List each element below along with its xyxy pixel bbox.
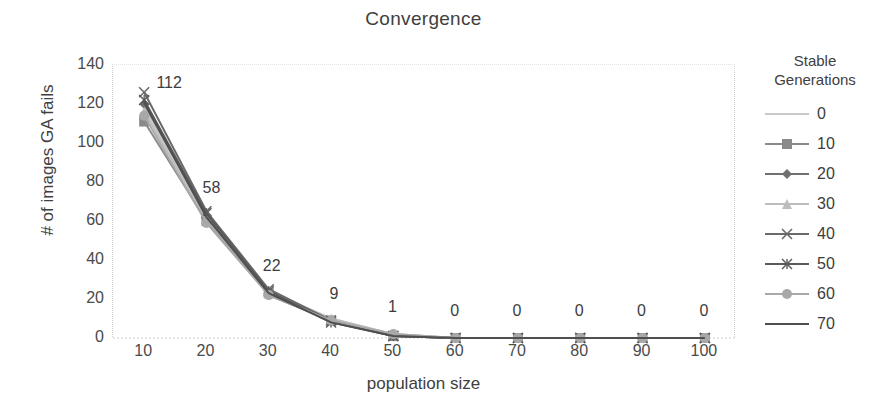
data-label: 22 xyxy=(263,258,281,274)
x-axis-tick-label: 100 xyxy=(680,343,728,359)
series-line xyxy=(139,117,710,343)
legend-item-40[interactable]: 40 xyxy=(748,219,882,249)
legend-items: 010203040506070 xyxy=(748,99,882,339)
legend-swatch-square-icon xyxy=(764,135,810,153)
y-axis-tick-label: 40 xyxy=(44,251,104,267)
x-axis-tick-label: 30 xyxy=(244,343,292,359)
data-label: 0 xyxy=(699,303,708,319)
legend-swatch-circle-icon xyxy=(764,285,810,303)
legend-label: 50 xyxy=(817,256,835,272)
legend-swatch-x-icon xyxy=(764,225,810,243)
legend-label: 30 xyxy=(817,196,835,212)
y-axis-tick-label: 140 xyxy=(44,56,104,72)
x-axis-tick-label: 90 xyxy=(618,343,666,359)
series-polyline xyxy=(144,116,705,338)
series-polyline xyxy=(144,100,705,338)
series-polyline xyxy=(144,92,705,338)
data-label: 1 xyxy=(388,299,397,315)
data-point-marker-circle xyxy=(139,111,149,121)
legend-title-line-2: Generations xyxy=(748,71,882,90)
legend-swatch-asterisk-icon xyxy=(764,255,810,273)
data-label: 112 xyxy=(156,75,182,91)
legend-title-line-1: Stable xyxy=(748,52,882,71)
legend-item-20[interactable]: 20 xyxy=(748,159,882,189)
data-point-marker-circle xyxy=(388,329,398,339)
data-label: 0 xyxy=(450,303,459,319)
series-line xyxy=(139,99,710,343)
series-polyline xyxy=(144,112,705,338)
x-axis-tick-label: 60 xyxy=(431,343,479,359)
x-axis-tick-labels: 102030405060708090100 xyxy=(112,343,735,367)
y-axis-tick-label: 60 xyxy=(44,212,104,228)
x-axis-tick-label: 80 xyxy=(555,343,603,359)
legend-item-10[interactable]: 10 xyxy=(748,129,882,159)
legend-label: 0 xyxy=(817,106,826,122)
x-axis-tick-label: 10 xyxy=(119,343,167,359)
legend-item-30[interactable]: 30 xyxy=(748,189,882,219)
legend-swatch-none-icon xyxy=(764,315,810,333)
data-label: 0 xyxy=(512,303,521,319)
legend-label: 10 xyxy=(817,136,835,152)
legend: Stable Generations 010203040506070 xyxy=(748,52,882,339)
legend-label: 40 xyxy=(817,226,835,242)
legend-swatch-none-icon xyxy=(764,105,810,123)
legend-title: Stable Generations xyxy=(748,52,882,90)
legend-item-50[interactable]: 50 xyxy=(748,249,882,279)
series-polyline xyxy=(144,122,705,338)
legend-label: 20 xyxy=(817,166,835,182)
data-label: 58 xyxy=(203,180,221,196)
series-line xyxy=(144,102,705,338)
data-point-marker-circle xyxy=(782,289,792,299)
plot-area xyxy=(112,64,735,337)
data-label: 0 xyxy=(575,303,584,319)
y-axis-tick-label: 0 xyxy=(44,329,104,345)
legend-item-60[interactable]: 60 xyxy=(748,279,882,309)
legend-item-70[interactable]: 70 xyxy=(748,309,882,339)
series-line xyxy=(139,87,710,343)
chart-title: Convergence xyxy=(112,8,735,30)
series-line xyxy=(139,95,710,343)
legend-label: 60 xyxy=(817,286,835,302)
x-axis-tick-label: 70 xyxy=(493,343,541,359)
chart-container: Convergence # of images GA fails 1401201… xyxy=(0,0,888,413)
series-line xyxy=(139,111,710,343)
series-polyline xyxy=(144,108,705,338)
y-axis-tick-labels: 140120100806040200 xyxy=(42,0,104,413)
y-axis-tick-label: 100 xyxy=(44,134,104,150)
data-point-marker-square xyxy=(782,139,792,149)
plot-svg xyxy=(113,65,736,338)
y-axis-tick-label: 20 xyxy=(44,290,104,306)
series-polyline xyxy=(144,102,705,338)
y-axis-tick-label: 120 xyxy=(44,95,104,111)
x-axis-tick-label: 50 xyxy=(368,343,416,359)
legend-swatch-triangle-icon xyxy=(764,195,810,213)
data-point-marker-diamond xyxy=(782,169,792,179)
x-axis-tick-label: 20 xyxy=(181,343,229,359)
series-polyline xyxy=(144,104,705,338)
series-line xyxy=(139,107,710,343)
y-axis-tick-label: 80 xyxy=(44,173,104,189)
x-axis-tick-label: 40 xyxy=(306,343,354,359)
legend-swatch-diamond-icon xyxy=(764,165,810,183)
series-line xyxy=(144,108,705,338)
x-axis-title: population size xyxy=(112,374,735,394)
data-label: 9 xyxy=(330,286,339,302)
data-label: 0 xyxy=(637,303,646,319)
legend-label: 70 xyxy=(817,316,835,332)
legend-item-0[interactable]: 0 xyxy=(748,99,882,129)
